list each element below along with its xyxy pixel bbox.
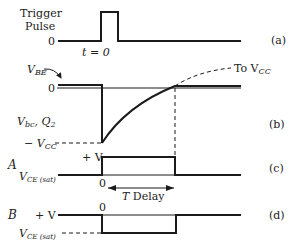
d-high-label: + V (35, 209, 57, 222)
time-zero-label: t = 0 (82, 46, 110, 59)
vbc-recovery-curve (102, 86, 241, 143)
b-zero-label: 0 (48, 82, 55, 95)
panel-a-trigger-pulse: Trigger Pulse 0 t = 0 (a) (20, 7, 286, 59)
t-delay-label: T Delay (122, 190, 165, 203)
vbe-label: VBE (27, 63, 47, 77)
panel-label-a: (a) (271, 34, 286, 47)
row-label-a: A (7, 158, 17, 172)
output-b-waveform (58, 215, 241, 233)
vbc-q2-label: Vbc, Q2 (17, 115, 56, 129)
c-vce-sat-label: VCE (sat) (19, 170, 56, 184)
timing-diagram: Trigger Pulse 0 t = 0 (a) VBE 0 To VCC V… (0, 0, 296, 245)
neg-vcc-label: − VCC (24, 137, 57, 151)
panel-label-c: (c) (269, 162, 284, 175)
panel-b-vbc-q2: VBE 0 To VCC Vbc, Q2 − VCC (b) (17, 62, 285, 157)
to-vcc-dashed-curve (175, 68, 231, 86)
trigger-zero-label: 0 (48, 35, 55, 48)
c-zero-label: 0 (99, 177, 106, 190)
trigger-title-line1: Trigger (20, 7, 63, 20)
vbc-waveform-step (58, 85, 102, 143)
panel-label-d: (d) (269, 209, 285, 222)
d-vce-sat-label: VCE (sat) (19, 227, 56, 241)
panel-d-output-b: B + V 0 VCE (sat) (d) (7, 201, 285, 241)
panel-c-output-a: A + V VCE (sat) 0 T Delay (c) (7, 151, 284, 203)
trigger-waveform (58, 12, 241, 41)
panel-label-b: (b) (269, 118, 285, 131)
row-label-b: B (7, 208, 17, 222)
c-high-label: + V (82, 151, 104, 164)
trigger-title-line2: Pulse (25, 20, 55, 33)
d-zero-label: 0 (99, 201, 106, 214)
to-vcc-label: To VCC (234, 62, 271, 76)
